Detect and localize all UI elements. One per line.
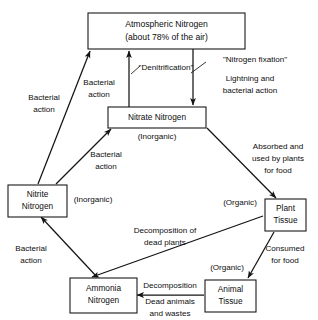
arrow-ammonia-to-nitrite: [41, 217, 97, 277]
node-atmospheric-nitrogen: Atmospheric Nitrogen (about 78% of the a…: [88, 13, 245, 49]
label-animal-to-ammonia-line1: Decomposition: [143, 281, 197, 290]
label-ammonia-to-nitrite: Bacterial action: [15, 244, 47, 265]
label-nitrogen-fixation: "Nitrogen fixation": [223, 55, 287, 64]
plant-tissue-state-label: (Organic): [223, 198, 257, 207]
node-animal-tissue: Animal Tissue (Organic): [205, 263, 256, 312]
label-plant-to-animal-line2: for food: [271, 256, 298, 265]
label-nitrate-to-atmospheric-line1: Bacterial: [83, 78, 115, 87]
label-nitrate-to-plant-line3: for food: [264, 166, 291, 175]
label-nitrite-to-nitrate-line1: Bacterial: [90, 150, 122, 159]
atmospheric-nitrogen-label-line2: (about 78% of the air): [125, 32, 208, 42]
label-plant-to-ammonia: Decomposition of dead plants: [134, 226, 197, 247]
nitrate-nitrogen-state-label: (Inorganic): [138, 132, 177, 141]
label-nitrate-to-plant-line2: used by plants: [252, 154, 304, 163]
ammonia-nitrogen-label-line1: Ammonia: [86, 283, 121, 293]
nitrite-nitrogen-label-line1: Nitrite: [27, 189, 49, 199]
label-nitrite-to-atmospheric: Bacterial action: [28, 93, 60, 114]
arrow-plant-to-animal-tissue: [248, 232, 274, 278]
animal-tissue-label-line1: Animal: [218, 284, 244, 294]
node-nitrate-nitrogen: Nitrate Nitrogen (Inorganic): [108, 107, 206, 141]
label-atmospheric-to-nitrate: Lightning and bacterial action: [223, 74, 277, 95]
plant-tissue-label-line2: Tissue: [273, 215, 298, 225]
animal-tissue-state-label: (Organic): [210, 263, 244, 272]
label-atmospheric-to-nitrate-line2: bacterial action: [223, 86, 277, 95]
nitrite-nitrogen-label-line2: Nitrogen: [22, 201, 54, 211]
label-plant-to-animal-tissue: Consumed for food: [265, 244, 304, 265]
arrow-nitrite-to-atmospheric: [38, 51, 90, 184]
animal-tissue-label-line2: Tissue: [218, 296, 243, 306]
label-plant-to-ammonia-line2: dead plants: [144, 238, 186, 247]
label-ammonia-to-nitrite-line1: Bacterial: [15, 244, 47, 253]
label-animal-to-ammonia-line2: Dead animals: [145, 297, 195, 306]
label-ammonia-to-nitrite-line2: action: [20, 256, 42, 265]
label-nitrate-to-plant-line1: Absorbed and: [253, 142, 303, 151]
nitrogen-cycle-diagram: Atmospheric Nitrogen (about 78% of the a…: [0, 0, 318, 320]
label-animal-to-ammonia-line3: and wastes: [150, 309, 191, 318]
label-nitrate-to-plant-tissue: Absorbed and used by plants for food: [252, 142, 304, 175]
plant-tissue-label-line1: Plant: [276, 203, 296, 213]
node-ammonia-nitrogen: Ammonia Nitrogen: [70, 278, 137, 313]
label-nitrite-to-atmospheric-line1: Bacterial: [28, 93, 60, 102]
nitrogen-cycle-canvas: Atmospheric Nitrogen (about 78% of the a…: [0, 0, 318, 320]
nitrite-nitrogen-state-label: (Inorganic): [74, 195, 113, 204]
label-denitrification: "Denitrification": [139, 63, 194, 72]
ammonia-nitrogen-label-line2: Nitrogen: [88, 295, 120, 305]
label-nitrate-to-atmospheric: Bacterial action: [83, 78, 115, 99]
label-atmospheric-to-nitrate-line1: Lightning and: [226, 74, 275, 83]
label-nitrite-to-nitrate: Bacterial action: [90, 150, 122, 171]
label-nitrite-to-nitrate-line2: action: [95, 162, 117, 171]
nitrate-nitrogen-label: Nitrate Nitrogen: [128, 112, 186, 122]
label-plant-to-animal-line1: Consumed: [265, 244, 304, 253]
label-animal-to-ammonia: Decomposition Dead animals and wastes: [143, 281, 197, 318]
node-nitrite-nitrogen: Nitrite Nitrogen (Inorganic): [8, 185, 113, 217]
atmospheric-nitrogen-label-line1: Atmospheric Nitrogen: [125, 19, 208, 29]
label-nitrate-to-atmospheric-line2: action: [88, 90, 110, 99]
label-nitrite-to-atmospheric-line2: action: [33, 105, 55, 114]
label-plant-to-ammonia-line1: Decomposition of: [134, 226, 197, 235]
